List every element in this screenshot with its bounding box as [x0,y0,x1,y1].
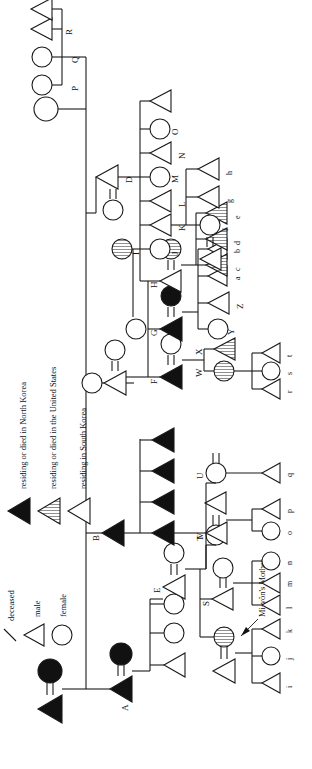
symbol-male-D [96,165,118,189]
label-t: t [285,354,294,357]
symbol-female-M [150,167,170,187]
symbol-female-n [262,552,280,570]
symbol-male-K [150,214,171,236]
children-l-m-n: l m n [252,552,294,615]
symbol-male-N [150,142,171,164]
label-o: o [285,531,294,535]
label-r: r [285,390,294,393]
label-Y: Y [226,328,236,335]
symbol-male-S [212,588,233,610]
label-W: W [194,368,204,377]
symbol-female-f [200,215,220,235]
symbol-male-D-child-extra [150,90,171,112]
symbol-male-B [102,520,124,546]
label-p: p [285,509,294,513]
symbol-female-P [32,75,52,95]
symbol-male-solid-ancestor [38,695,62,723]
legend-north-korea-label: residing or died in North Korea [18,382,28,489]
symbol-female-j [262,647,280,665]
label-s: s [285,372,294,375]
label-g: g [225,199,234,203]
label-d: d [233,241,242,245]
symbol-female-I [112,239,132,259]
persons-J-K-L-M-N-O: J K L M N O [140,90,187,259]
symbol-female-Y [208,319,228,339]
person-S-family: S [200,558,252,610]
symbol-female-U [206,463,226,483]
figure-page: A E [0,0,312,769]
label-B: B [91,535,101,541]
label-R: R [64,29,74,35]
label-O: O [170,128,180,135]
symbol-male-R [31,18,52,40]
label-E: E [152,587,162,593]
symbol-female-C-wife2 [82,373,102,393]
symbol-male-B-child3 [152,459,174,483]
symbol-female-O [150,119,170,139]
symbol-female-D-spouse [103,200,123,220]
symbol-male-T-spouse [205,492,226,514]
legend: deceased male female residing or died in… [4,367,90,646]
symbol-male-r [262,379,280,399]
person-D-family: D [86,165,140,249]
symbol-female-S-spouse [213,558,233,578]
symbol-female-C-wife1 [105,340,125,360]
symbol-female-A-spouse [110,643,132,665]
label-Q: Q [70,56,80,63]
symbol-female-miyon-mother [214,627,234,647]
label-j: j [285,658,294,661]
symbol-male-B-child2 [152,490,174,514]
symbol-female-J [150,239,170,259]
legend-north-korea-icon [8,498,30,524]
label-I: I [131,252,141,255]
symbol-female-W [214,361,234,381]
symbol-female-solid-ancestor [38,659,62,683]
label-l: l [285,606,294,609]
symbol-male-k [262,619,280,639]
miyon-mother-family: Mi-yŏn's Mother [200,559,267,683]
rotated-chart-canvas: A E [0,0,312,769]
label-m: m [285,580,294,587]
A-children [150,594,185,677]
legend-female-label: female [58,594,68,617]
symbol-female-o [262,522,280,540]
label-q: q [285,473,294,477]
symbol-female-s [262,362,280,380]
symbol-female-child-A2 [164,623,184,643]
label-n: n [285,561,294,565]
children-i-j-k: i j k [252,619,294,693]
label-k: k [285,629,294,633]
label-V: V [195,532,205,539]
legend-male-label: male [32,600,42,617]
symbol-male-q [262,463,280,483]
symbol-male-t [262,343,280,363]
label-i: i [285,685,294,688]
legend-south-korea-icon [68,498,90,524]
label-G: G [149,329,159,336]
label-A: A [120,704,130,711]
legend-united-states-label: residing or died in the United States [48,367,58,489]
children-o-p: o p [252,499,294,540]
legend-united-states-icon [38,498,60,524]
person-B-family: B [86,428,174,546]
symbol-male-X [214,338,235,360]
label-e: e [233,215,242,219]
symbol-male-C [104,371,126,395]
symbol-male-child-A1 [164,653,185,677]
children-r-s-t: r s t [234,343,294,399]
label-H: H [149,281,159,288]
legend-male-icon [24,624,44,646]
symbol-male-B-child1 [152,521,174,545]
label-P: P [70,86,80,91]
symbol-male-F [160,365,182,389]
person-F-family: F [148,334,204,389]
label-a: a [233,276,242,280]
symbol-female-Q [32,47,52,67]
label-c: c [233,267,242,271]
right-branch: P Q R [31,0,86,213]
person-A-family: A [86,599,150,711]
symbol-female-E-spouse [164,543,184,563]
legend-female-icon [52,625,72,645]
symbol-male-B-child4 [152,428,174,452]
symbol-female-right-ancestor [34,97,58,121]
